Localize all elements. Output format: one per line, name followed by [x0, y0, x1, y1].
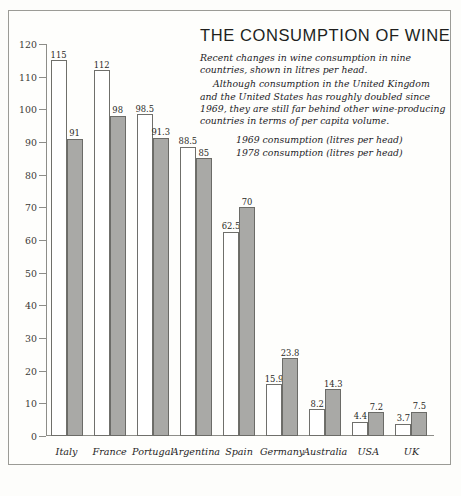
bar-uk-1978: 7.5 — [411, 412, 427, 437]
x-axis-label-france: France — [93, 446, 127, 457]
bar-value-label: 88.5 — [179, 136, 198, 146]
x-axis-label-australia: Australia — [303, 446, 347, 457]
y-axis-line — [46, 44, 47, 436]
y-axis-tick — [39, 44, 46, 45]
bar-argentina-1969: 88.5 — [180, 147, 196, 436]
bar-france-1978: 98 — [110, 116, 126, 436]
bar-value-label: 85 — [199, 148, 210, 158]
bar-portugal-1969: 98.5 — [137, 114, 153, 436]
y-axis-tick-label: 120 — [19, 39, 37, 50]
x-axis-label-portugal: Portugal — [132, 446, 173, 457]
y-axis-tick-label: 40 — [25, 300, 37, 311]
y-axis-tick — [39, 207, 46, 208]
bar-germany-1978: 23.8 — [282, 358, 298, 436]
x-axis-label-usa: USA — [358, 446, 380, 457]
bar-value-label: 62.5 — [222, 221, 241, 231]
bar-usa-1978: 7.2 — [368, 412, 384, 436]
y-axis-tick-label: 30 — [25, 333, 37, 344]
page-title: THE CONSUMPTION OF WINE — [200, 26, 448, 45]
y-axis-tick — [39, 371, 46, 372]
bar-value-label: 3.7 — [397, 413, 410, 423]
bar-spain-1978: 70 — [239, 207, 255, 436]
y-axis-tick-label: 110 — [19, 71, 37, 82]
x-axis-label-uk: UK — [404, 446, 419, 457]
bar-value-label: 98.5 — [135, 104, 154, 114]
bar-value-label: 7.5 — [413, 401, 426, 411]
bar-argentina-1978: 85 — [196, 158, 212, 436]
bar-value-label: 7.2 — [370, 402, 383, 412]
bar-germany-1969: 15.9 — [266, 384, 282, 436]
y-axis-tick — [39, 436, 46, 437]
y-axis-tick — [39, 305, 46, 306]
plot-area: 0102030405060708090100110120 11591112989… — [46, 44, 434, 436]
y-axis-tick-label: 70 — [25, 202, 37, 213]
y-axis-tick — [39, 403, 46, 404]
y-axis-tick — [39, 77, 46, 78]
bar-value-label: 91.3 — [151, 127, 170, 137]
y-axis-tick-label: 10 — [25, 398, 37, 409]
bar-usa-1969: 4.4 — [352, 422, 368, 436]
y-axis-tick — [39, 338, 46, 339]
y-axis-tick-label: 60 — [25, 235, 37, 246]
bar-value-label: 15.9 — [265, 374, 284, 384]
bar-value-label: 70 — [242, 197, 253, 207]
bar-value-label: 115 — [51, 50, 67, 60]
bar-portugal-1978: 91.3 — [153, 138, 169, 436]
bar-italy-1969: 115 — [51, 60, 67, 436]
y-axis-tick — [39, 142, 46, 143]
y-axis-tick-label: 100 — [19, 104, 37, 115]
bar-value-label: 4.4 — [354, 411, 367, 421]
bar-france-1969: 112 — [94, 70, 110, 436]
y-axis-tick — [39, 175, 46, 176]
y-axis-tick-label: 90 — [25, 137, 37, 148]
bar-italy-1978: 91 — [67, 139, 83, 436]
y-axis-tick — [39, 273, 46, 274]
x-axis-label-spain: Spain — [225, 446, 253, 457]
bar-spain-1969: 62.5 — [223, 232, 239, 436]
x-axis-label-argentina: Argentina — [172, 446, 220, 457]
y-axis-tick-label: 20 — [25, 365, 37, 376]
bar-value-label: 14.3 — [324, 379, 343, 389]
chart-page: THE CONSUMPTION OF WINE Recent changes i… — [0, 0, 461, 496]
y-axis-tick-label: 50 — [25, 267, 37, 278]
x-axis-label-germany: Germany — [260, 446, 304, 457]
bar-australia-1978: 14.3 — [325, 389, 341, 436]
y-axis-tick-label: 0 — [31, 431, 37, 442]
bar-uk-1969: 3.7 — [395, 424, 411, 436]
x-axis-label-italy: Italy — [56, 446, 78, 457]
bar-value-label: 91 — [69, 128, 80, 138]
bar-value-label: 8.2 — [311, 399, 324, 409]
y-axis-tick — [39, 109, 46, 110]
bar-value-label: 112 — [94, 60, 110, 70]
y-axis-tick — [39, 240, 46, 241]
bar-value-label: 23.8 — [281, 348, 300, 358]
bar-value-label: 98 — [112, 105, 123, 115]
bar-australia-1969: 8.2 — [309, 409, 325, 436]
y-axis-tick-label: 80 — [25, 169, 37, 180]
